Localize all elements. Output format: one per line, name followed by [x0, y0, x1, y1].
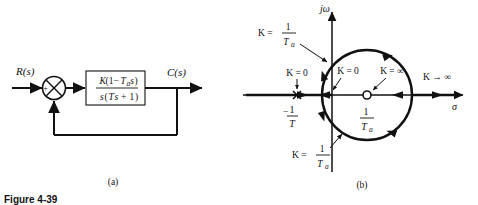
numerator-open-paren: (1 [106, 76, 114, 87]
summing-junction-plus-sign: + [43, 84, 48, 93]
imaginary-axis-label: jω [318, 3, 330, 14]
denominator-one: 1 [130, 92, 135, 102]
annotation-k-upper-numerator: 1 [286, 22, 291, 32]
figure-caption-label: Figure 4-39 [4, 194, 58, 205]
annotation-k-upper-denominator-subscript: a [291, 40, 295, 49]
figure-root-locus-block-diagram: R(s) + − K (1 − T a s ) s ( T s [0, 0, 478, 205]
annotation-k-infinity-zero: K = ∞ [380, 66, 404, 76]
pole-label-numerator: 1 [290, 104, 295, 115]
output-signal-label: C(s) [167, 66, 186, 79]
zero-label-numerator: 1 [364, 106, 369, 117]
annotation-k-upper-lhs: K = [258, 28, 273, 38]
annotation-k-lower-numerator: 1 [320, 144, 325, 154]
annotation-k-zero-origin: K = 0 [337, 66, 359, 76]
annotation-k-zero-pole: K = 0 [286, 68, 308, 78]
pole-label-minus: − [283, 106, 289, 117]
numerator-close-paren: ) [135, 76, 138, 87]
denominator-s: s [100, 92, 104, 102]
panel-a-caption: (a) [108, 177, 119, 188]
denominator-T: T [108, 92, 114, 102]
zero-label-denominator-subscript: a [369, 125, 373, 134]
denominator-open-paren: ( [104, 92, 107, 103]
annotation-k-lower-denominator-subscript: a [325, 162, 329, 171]
numerator-minus: − [114, 76, 119, 86]
zero-marker-open-circle [363, 91, 371, 99]
annotation-k-lower-denominator: T [317, 159, 323, 169]
denominator-plus: + [121, 92, 126, 102]
panel-b-caption: (b) [356, 180, 367, 191]
denominator-s2: s [115, 92, 119, 102]
input-signal-label: R(s) [15, 65, 35, 78]
annotation-k-lower-lhs: K = [292, 150, 307, 160]
annotation-k-upper-denominator: T [283, 37, 289, 47]
denominator-close-paren: ) [135, 92, 138, 103]
annotation-k-infinity-right: K → ∞ [423, 72, 451, 82]
